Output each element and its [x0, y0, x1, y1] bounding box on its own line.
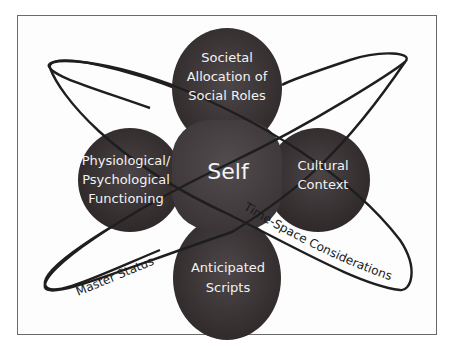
right-node-label-line1: Cultural: [297, 158, 348, 173]
top-node-label-line1: Societal: [201, 50, 253, 65]
right-node-label-line2: Context: [298, 177, 349, 192]
top-node-label-line3: Social Roles: [188, 88, 266, 103]
bottom-node-label-line2: Scripts: [206, 280, 251, 295]
left-node-label-line2: Psychological: [82, 172, 170, 187]
top-node-label-line2: Allocation of: [187, 69, 268, 84]
bottom-node-label-line1: Anticipated: [191, 260, 265, 275]
left-node-label-line3: Functioning: [88, 191, 163, 206]
master-status-text: Master Status: [74, 254, 156, 299]
master-status-label: Master Status: [74, 254, 156, 299]
left-node-label-line1: Physiological/: [82, 153, 171, 168]
self-model-diagram: Societal Allocation of Social Roles Phys…: [0, 0, 455, 356]
center-self-label: Self: [207, 159, 250, 184]
